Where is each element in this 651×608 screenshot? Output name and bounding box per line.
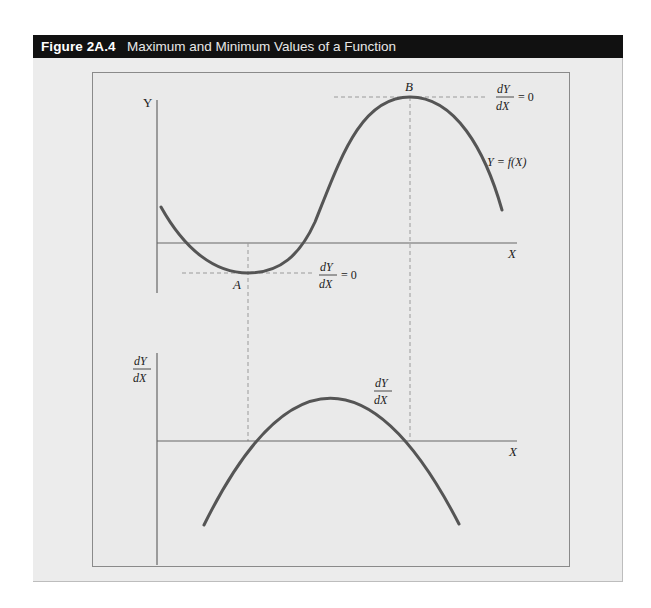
function-diagram: Y X A B Y = f(X) dY dX = 0 dY dX = 0 dY …	[0, 0, 651, 608]
bottom-x-axis-label: X	[508, 444, 518, 459]
top-x-axis-label: X	[507, 246, 517, 261]
point-b-label: B	[405, 79, 413, 94]
svg-text:dY: dY	[320, 260, 334, 274]
min-slope-label: dY dX = 0	[319, 260, 357, 291]
svg-text:dX: dX	[133, 371, 147, 385]
svg-text:dY: dY	[134, 354, 148, 368]
svg-text:= 0: = 0	[518, 90, 534, 104]
top-y-axis-label: Y	[143, 95, 153, 110]
max-slope-label: dY dX = 0	[496, 82, 534, 113]
svg-text:dX: dX	[496, 99, 510, 113]
derivative-curve	[204, 398, 459, 525]
curve-label: Y = f(X)	[487, 155, 526, 169]
derivative-curve-label: dY dX	[374, 376, 392, 407]
bottom-chart: dY dX dY dX X	[133, 353, 518, 565]
svg-text:dY: dY	[375, 376, 389, 390]
svg-text:dX: dX	[374, 393, 388, 407]
svg-text:dY: dY	[497, 82, 511, 96]
bottom-y-axis-label: dY dX	[133, 354, 151, 385]
function-curve	[161, 97, 502, 273]
top-chart: Y X A B Y = f(X) dY dX = 0 dY dX = 0	[143, 79, 534, 441]
point-a-label: A	[232, 277, 241, 292]
svg-text:= 0: = 0	[341, 268, 357, 282]
svg-text:dX: dX	[319, 277, 333, 291]
